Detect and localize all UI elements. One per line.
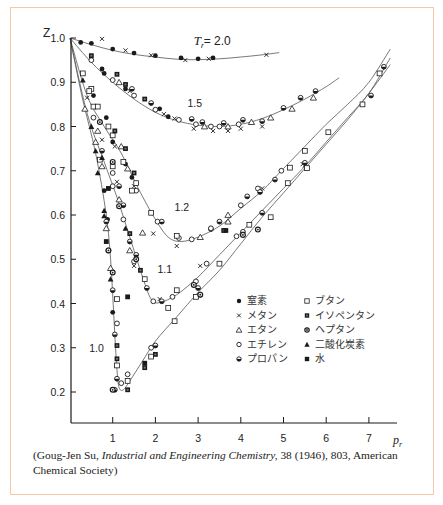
filled-circle-marker [196,56,201,61]
half-circle-marker [189,117,194,122]
half-circle-marker [159,299,164,304]
filled-circle-marker [102,188,107,193]
curve-label: 1.5 [187,97,202,109]
series-open-circle [89,58,284,386]
filled-triangle-marker [80,77,86,82]
x-axis-label: pr [392,433,403,449]
open-square-marker [217,261,222,266]
half-filled-square-marker [115,72,120,77]
filled-circle-marker [166,114,171,119]
figure-caption: (Goug-Jen Su, Industrial and Engineering… [33,448,425,478]
filled-circle-marker [78,40,83,45]
dotted-circle-marker [117,204,122,209]
dotted-circle-marker [241,233,246,238]
open-circle-marker [119,381,124,386]
half-filled-square-marker [132,171,137,176]
half-filled-square-marker [138,268,143,273]
open-square-marker [174,288,179,293]
curve-tr-1-2 [70,38,390,242]
x-tick-label: 7 [366,432,372,444]
open-circle-marker [204,261,209,266]
open-triangle-marker [103,225,109,230]
half-circle-marker [281,106,286,111]
open-circle-marker [153,107,158,112]
filled-circle-marker [153,53,158,58]
x-marker [113,144,117,148]
open-circle-marker [91,115,96,120]
x-marker [260,124,264,128]
legend-label: 窒素 [247,294,267,306]
legend-item: 窒素 [237,294,267,306]
half-filled-square-marker [125,387,130,392]
y-tick-label: 0.5 [50,253,65,265]
open-square-marker [125,379,130,384]
axes: 1.00.90.80.70.60.50.40.30.2 1234567 Z pr [43,26,403,449]
x-marker [211,129,215,133]
filled-triangle-marker [108,276,114,281]
y-tick-label: 0.9 [50,76,65,88]
filled-square-marker [223,228,228,233]
open-square-marker [149,354,154,359]
dotted-circle-marker [198,292,203,297]
x-tick-label: 1 [110,432,116,444]
filled-triangle-marker [304,342,309,347]
open-square-marker [142,277,147,282]
legend-label: イソペンタン [315,310,375,321]
half-circle-marker [258,190,263,195]
open-circle-marker [209,226,214,231]
half-circle-marker [130,86,135,91]
half-circle-marker [241,117,246,122]
x-marker [162,112,166,116]
filled-circle-marker [100,67,105,72]
curve-label: 1.0 [89,342,104,354]
open-circle-marker [125,372,130,377]
dotted-circle-marker [134,257,139,262]
dotted-circle-marker [106,248,111,253]
open-square-marker [288,165,293,170]
open-square-marker [166,306,171,311]
half-circle-marker [369,93,374,98]
open-circle-marker [234,234,239,239]
legend-item: 水 [305,353,325,364]
open-circle-marker [89,58,94,63]
filled-circle-marker [110,140,115,145]
compressibility-chart: 1.00.90.80.70.60.50.40.30.2 1234567 Z pr… [0,0,443,505]
y-axis-label: Z [43,26,50,40]
open-square-marker [121,160,126,165]
dotted-circle-marker [191,283,196,288]
legend-label: ヘプタン [315,324,355,335]
x-marker [226,129,230,133]
y-tick-label: 1.0 [50,32,65,44]
legend-item: エタン [236,324,277,335]
legend-item: 二酸化炭素 [304,338,365,350]
legend-label: 二酸化炭素 [315,338,365,350]
x-marker [115,180,119,184]
open-circle-marker [237,342,241,346]
x-tick-label: 6 [323,432,329,444]
half-circle-marker [115,376,120,381]
y-ticks: 1.00.90.80.70.60.50.40.30.2 [50,32,76,398]
caption-journal: Industrial and Engineering Chemistry, [102,449,278,461]
x-marker [151,232,155,236]
open-square-marker [305,166,310,171]
filled-circle-marker [132,51,137,56]
open-circle-marker [189,237,194,242]
half-circle-marker [127,239,132,244]
filled-circle-marker [123,86,128,91]
y-tick-label: 0.7 [50,165,65,177]
series-filled-circle [78,40,215,315]
open-circle-marker [115,321,120,326]
half-circle-marker [381,64,386,69]
half-filled-square-marker [142,97,147,102]
filled-circle-marker [130,175,135,180]
half-circle-marker [159,219,164,224]
x-marker [100,138,104,142]
open-square-marker [305,299,309,303]
x-marker [100,37,104,41]
open-square-marker [285,181,290,186]
half-circle-marker [153,343,158,348]
open-circle-marker [151,299,156,304]
legend-item: ブタン [305,294,345,306]
y-tick-label: 0.6 [50,209,65,221]
open-square-marker [377,71,382,76]
